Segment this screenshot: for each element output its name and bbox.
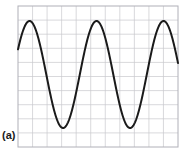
panel-label: (a) <box>2 128 15 142</box>
waveform-figure: (a) <box>0 0 182 155</box>
waveform-plot <box>0 0 182 155</box>
